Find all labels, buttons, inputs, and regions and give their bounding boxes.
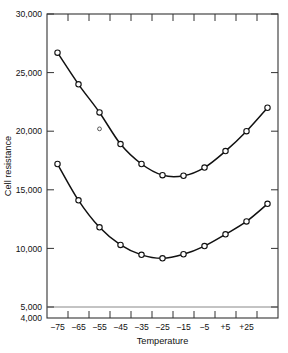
data-point-marker — [118, 141, 123, 146]
y-axis-tick-label: 20,000 — [16, 126, 43, 136]
series-line-upper-curve — [58, 53, 268, 177]
data-point-marker — [244, 219, 249, 224]
chart-svg: 30,00025,00020,00015,00010,0005,0004,000… — [0, 0, 288, 353]
x-axis-tick-label: −75 — [50, 322, 65, 332]
data-point-marker — [76, 82, 81, 87]
x-axis-tick-label: −45 — [113, 322, 128, 332]
y-axis-tick-label: 30,000 — [16, 9, 43, 19]
data-point-marker — [139, 161, 144, 166]
data-point-marker — [202, 165, 207, 170]
y-axis-tick-label: 5,000 — [20, 302, 42, 312]
data-point-marker — [223, 148, 228, 153]
data-point-marker — [202, 243, 207, 248]
y-axis-tick-label: 15,000 — [16, 185, 43, 195]
x-axis-tick-label: −15 — [176, 322, 191, 332]
x-axis-tick-label: −25 — [155, 322, 170, 332]
outlier-point-marker — [98, 127, 102, 131]
data-point-marker — [139, 252, 144, 257]
x-axis-title: Temperature — [137, 336, 189, 346]
data-point-marker — [76, 198, 81, 203]
x-axis-tick-label: +5 — [221, 322, 231, 332]
data-point-marker — [118, 242, 123, 247]
plot-frame — [47, 14, 278, 318]
data-point-marker — [55, 50, 60, 55]
x-axis-tick-label: −5 — [200, 322, 210, 332]
data-point-marker — [160, 172, 165, 177]
data-point-marker — [97, 110, 102, 115]
data-point-marker — [265, 105, 270, 110]
data-point-marker — [244, 129, 249, 134]
x-axis-tick-label: −65 — [71, 322, 86, 332]
y-axis-tick-label: 10,000 — [16, 244, 43, 254]
y-axis-title: Cell resistance — [3, 136, 13, 196]
x-axis-tick-label: −55 — [92, 322, 107, 332]
data-point-marker — [181, 252, 186, 257]
y-axis-tick-label: 4,000 — [20, 313, 42, 323]
x-axis-tick-label: +25 — [239, 322, 254, 332]
cell-resistance-chart: 30,00025,00020,00015,00010,0005,0004,000… — [0, 0, 288, 353]
y-axis-tick-label: 25,000 — [16, 68, 43, 78]
data-point-marker — [160, 256, 165, 261]
data-point-marker — [55, 161, 60, 166]
data-point-marker — [265, 201, 270, 206]
data-point-marker — [223, 232, 228, 237]
x-axis-tick-label: −35 — [134, 322, 149, 332]
data-point-marker — [97, 225, 102, 230]
data-point-marker — [181, 173, 186, 178]
